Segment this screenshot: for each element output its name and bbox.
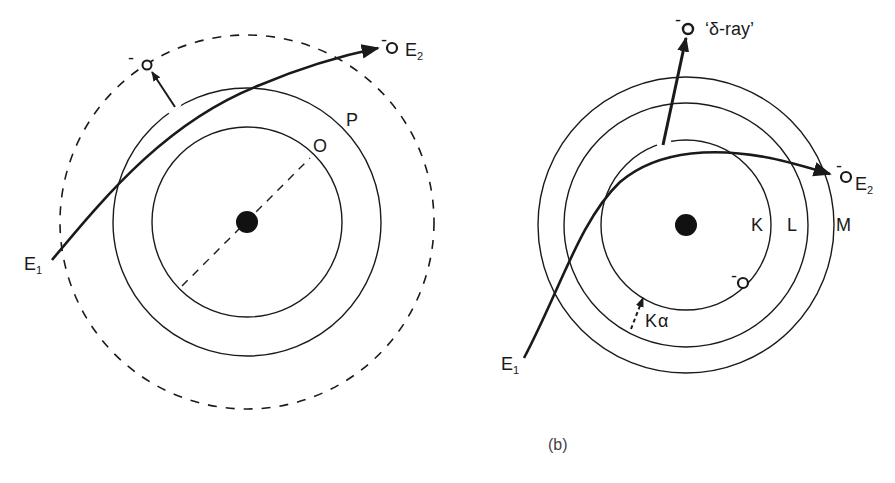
outgoing-electron-charge-left: - <box>381 30 387 50</box>
right-atom-diagram: - ‘δ-ray’ - E2 E1 - Kα K L M <box>501 10 873 376</box>
label-e2-left: E2 <box>405 40 423 62</box>
k-shell-electron-charge: - <box>731 266 737 286</box>
electron-trajectory-right <box>524 152 830 358</box>
electron-trajectory-left <box>52 48 378 260</box>
label-shell-p: P <box>346 110 358 130</box>
nucleus-right <box>675 214 697 236</box>
label-k-alpha: Kα <box>645 311 668 331</box>
delta-ray-electron-charge: - <box>675 10 681 30</box>
outgoing-electron-charge-right: - <box>836 156 842 176</box>
delta-ray-arrow <box>663 38 686 145</box>
label-delta-ray: ‘δ-ray’ <box>705 19 754 39</box>
outgoing-electron-right <box>841 172 851 182</box>
label-shell-o: O <box>313 136 327 156</box>
figure-canvas: - - E2 E1 P O - ‘δ-ray’ - E2 E1 - <box>0 0 895 483</box>
figure-caption: (b) <box>548 436 568 453</box>
label-e1-right: E1 <box>501 354 519 376</box>
left-atom-diagram: - - E2 E1 P O <box>24 30 434 409</box>
outgoing-electron-left <box>387 43 397 53</box>
ejected-electron-charge: - <box>128 48 134 68</box>
label-e1-left: E1 <box>24 254 42 276</box>
label-e2-right: E2 <box>855 174 873 196</box>
delta-ray-electron <box>683 24 693 34</box>
label-shell-k: K <box>751 215 763 235</box>
ejection-arrow <box>152 72 175 107</box>
k-shell-electron <box>738 278 748 288</box>
ejected-electron <box>143 61 152 70</box>
nucleus-left <box>236 211 258 233</box>
label-shell-l: L <box>787 215 797 235</box>
k-alpha-transition-arrow <box>631 298 643 329</box>
label-shell-m: M <box>836 215 851 235</box>
